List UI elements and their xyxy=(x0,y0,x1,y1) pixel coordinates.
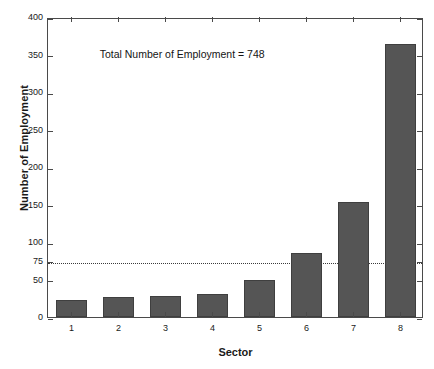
x-tick-label: 1 xyxy=(52,323,92,333)
x-tick-mark-top xyxy=(165,17,166,22)
x-tick-mark xyxy=(212,312,213,317)
y-tick-mark xyxy=(48,169,53,170)
bar-sector-7 xyxy=(338,202,370,317)
bar-sector-8 xyxy=(385,44,417,317)
y-tick-mark-right xyxy=(417,281,422,282)
y-tick-mark-right xyxy=(417,56,422,57)
x-tick-mark xyxy=(165,312,166,317)
y-tick-label: 400 xyxy=(28,12,43,22)
x-tick-label: 2 xyxy=(99,323,139,333)
bar-sector-6 xyxy=(291,253,323,317)
x-tick-mark-top xyxy=(71,17,72,22)
x-tick-mark xyxy=(400,312,401,317)
x-axis-title: Sector xyxy=(47,346,424,358)
y-tick-mark-right xyxy=(417,244,422,245)
y-tick-mark xyxy=(48,19,53,20)
plot-area: 05075100150200250300350400 12345678 Tota… xyxy=(47,18,423,318)
x-tick-mark xyxy=(259,312,260,317)
y-tick-label: 50 xyxy=(33,275,43,285)
y-tick-label: 100 xyxy=(28,237,43,247)
y-tick-label: 75 xyxy=(33,256,43,266)
x-tick-mark xyxy=(118,312,119,317)
x-tick-label: 7 xyxy=(334,323,374,333)
y-tick-mark xyxy=(48,206,53,207)
y-tick-mark-right xyxy=(417,19,422,20)
total-employment-annotation: Total Number of Employment = 748 xyxy=(100,48,265,60)
x-tick-mark xyxy=(71,312,72,317)
x-tick-mark-top xyxy=(118,17,119,22)
y-tick-mark xyxy=(48,94,53,95)
y-tick-mark xyxy=(48,244,53,245)
y-tick-mark xyxy=(48,281,53,282)
x-tick-label: 5 xyxy=(240,323,280,333)
x-tick-mark xyxy=(306,312,307,317)
y-tick-label: 300 xyxy=(28,87,43,97)
y-tick-mark xyxy=(48,131,53,132)
x-tick-label: 3 xyxy=(146,323,186,333)
y-tick-mark-right xyxy=(417,131,422,132)
y-tick-label: 350 xyxy=(28,50,43,60)
y-tick-mark xyxy=(48,56,53,57)
y-tick-mark-right xyxy=(417,169,422,170)
y-tick-label: 150 xyxy=(28,200,43,210)
employment-bar-chart: Number of Employment 0507510015020025030… xyxy=(0,0,434,369)
x-tick-label: 4 xyxy=(193,323,233,333)
y-tick-label: 200 xyxy=(28,162,43,172)
x-tick-label: 6 xyxy=(287,323,327,333)
y-tick-label: 250 xyxy=(28,125,43,135)
x-tick-mark-top xyxy=(212,17,213,22)
y-tick-mark-right xyxy=(417,319,422,320)
y-tick-label: 0 xyxy=(38,312,43,322)
x-tick-mark-top xyxy=(353,17,354,22)
x-tick-mark xyxy=(353,312,354,317)
x-tick-mark-top xyxy=(400,17,401,22)
x-tick-label: 8 xyxy=(381,323,421,333)
x-tick-mark-top xyxy=(306,17,307,22)
y-tick-mark-right xyxy=(417,94,422,95)
y-tick-mark-right xyxy=(417,206,422,207)
x-tick-mark-top xyxy=(259,17,260,22)
y-tick-mark xyxy=(48,319,53,320)
